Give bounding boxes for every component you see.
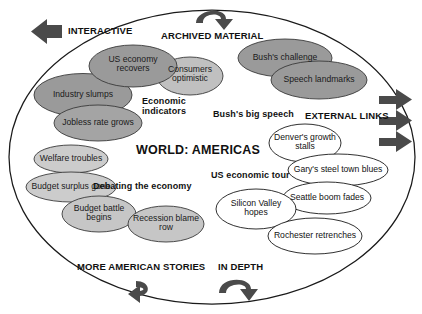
page-title: WORLD: AMERICAS	[136, 144, 260, 158]
bubble-garys-steel-town-blues[interactable]	[288, 154, 388, 186]
diagram-canvas: INTERACTIVE ARCHIVED MATERIAL EXTERNAL L…	[0, 0, 422, 314]
bubble-rochester-retrenches[interactable]	[268, 218, 362, 254]
bubble-budget-battle-begins[interactable]	[62, 196, 136, 232]
section-label-interactive[interactable]: INTERACTIVE	[68, 26, 132, 36]
bubble-us-economy-recovers[interactable]	[89, 45, 177, 87]
bubble-recession-blame-row[interactable]	[128, 206, 204, 242]
bubble-jobless-rate-grows[interactable]	[54, 105, 142, 141]
section-label-archived-material[interactable]: ARCHIVED MATERIAL	[161, 31, 263, 41]
bubble-speech-landmarks[interactable]	[271, 61, 367, 99]
topic-label-bushs-big-speech[interactable]: Bush's big speech	[213, 110, 294, 120]
archived-material-arrow-icon[interactable]	[196, 11, 233, 30]
section-label-external-links[interactable]: EXTERNAL LINKS	[305, 111, 389, 121]
external-link-arrow-3-icon[interactable]	[379, 131, 412, 152]
topic-label-debating-the-economy[interactable]: Debating the economy	[93, 182, 192, 192]
topic-label-us-economic-tour[interactable]: US economic tour	[211, 171, 290, 181]
section-label-in-depth[interactable]: IN DEPTH	[218, 262, 263, 272]
more-american-stories-arrow-icon[interactable]	[128, 281, 148, 303]
section-label-more-american-stories[interactable]: MORE AMERICAN STORIES	[77, 262, 205, 272]
in-depth-arrow-icon[interactable]	[219, 280, 258, 301]
external-link-arrow-1-icon[interactable]	[379, 89, 412, 110]
cluster-economic-indicators	[34, 45, 223, 141]
bubble-welfare-troubles[interactable]	[34, 145, 108, 173]
cluster-debating-the-economy	[26, 145, 204, 242]
topic-label-economic-indicators[interactable]: Economic indicators	[142, 97, 196, 116]
interactive-arrow-icon[interactable]	[31, 19, 62, 44]
